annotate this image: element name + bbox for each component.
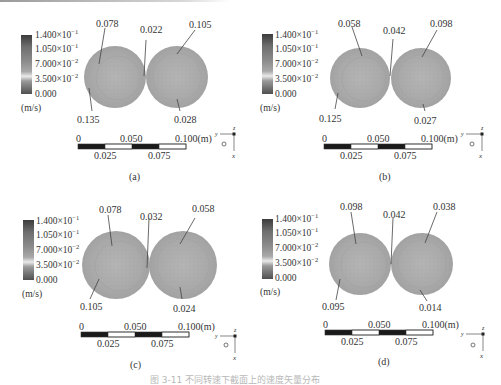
annotation-right-top: 0.038 [433, 201, 456, 212]
panel-a: 1.400×10−1 1.050×10−1 7.000×10−2 3.500×1… [21, 18, 236, 183]
colorbar-unit: (m/s) [21, 103, 41, 114]
svg-text:1.050×10−1: 1.050×10−1 [36, 228, 79, 240]
annotation-right-top: 0.098 [430, 18, 453, 29]
scale-bar: 0 0.050 0.100(m) 0.025 0.075 [323, 319, 459, 347]
svg-text:7.000×10−2: 7.000×10−2 [36, 243, 79, 255]
annotation-left-top: 0.098 [340, 201, 363, 212]
colorbar-tick-4: 0.000 [35, 89, 57, 99]
panel-d: 1.400×10−1 1.050×10−1 7.000×10−2 3.500×1… [260, 201, 485, 368]
colorbar-unit: (m/s) [260, 287, 280, 298]
svg-text:0.075: 0.075 [394, 150, 417, 161]
colorbar-tick-4: 0.000 [275, 89, 297, 99]
scale-bar: 0 0.050 0.100(m) 0.025 0.075 [79, 321, 215, 349]
svg-text:0: 0 [79, 321, 84, 332]
svg-text:x: x [232, 354, 237, 362]
annotation-left-bottom: 0.095 [322, 301, 345, 312]
scale-tick-100: 0.100(m) [175, 133, 212, 145]
annotation-right-bottom: 0.014 [419, 302, 442, 313]
axis-triad: y z x [214, 327, 237, 362]
annotation-left-top: 0.078 [96, 18, 119, 29]
colorbar-tick-2: 7.000×10−2 [35, 57, 78, 69]
axis-triad: y z x [460, 325, 485, 360]
panel-label: (c) [130, 359, 141, 371]
annotation-right-bottom: 0.027 [414, 115, 437, 126]
scale-tick-075: 0.075 [148, 150, 171, 161]
colorbar-unit: (m/s) [22, 289, 42, 300]
velocity-contour-discs [84, 46, 208, 108]
annotation-right-bottom: 0.028 [174, 114, 197, 125]
svg-text:0.050: 0.050 [368, 319, 391, 330]
annotation-right-top: 0.058 [192, 203, 215, 214]
colorbar-tick-3: 3.500×10−2 [35, 72, 78, 84]
svg-text:0.000: 0.000 [275, 273, 297, 283]
scale-bar: 0 0.050 0.100(m) 0.025 0.075 [76, 133, 212, 161]
svg-text:z: z [233, 327, 237, 333]
svg-text:z: z [232, 125, 236, 131]
svg-text:0: 0 [322, 133, 327, 144]
figure-caption: 图 3-11 不同转速下截面上的速度矢量分布 [150, 374, 320, 385]
panel-label: (a) [129, 171, 140, 183]
colorbar-tick-3: 3.500×10−2 [275, 72, 318, 84]
axis-triad: y z x [460, 125, 484, 160]
colorbar-gradient [21, 35, 32, 94]
svg-text:3.500×10−2: 3.500×10−2 [36, 258, 79, 270]
annotation-left-bottom: 0.125 [319, 113, 342, 124]
svg-text:0.025: 0.025 [97, 338, 120, 349]
panel-label: (b) [379, 171, 391, 183]
svg-text:0.100(m): 0.100(m) [421, 133, 458, 145]
scale-bar: 0 0.050 0.100(m) 0.025 0.075 [322, 133, 458, 161]
svg-text:z: z [480, 125, 484, 131]
svg-text:1.050×10−1: 1.050×10−1 [275, 226, 318, 238]
annotation-left-bottom: 0.105 [80, 301, 103, 312]
svg-text:z: z [481, 325, 485, 331]
svg-text:0.100(m): 0.100(m) [178, 321, 215, 333]
colorbar: 1.400×10−1 1.050×10−1 7.000×10−2 3.500×1… [22, 214, 79, 300]
panel-c: 1.400×10−1 1.050×10−1 7.000×10−2 3.500×1… [22, 203, 237, 371]
svg-text:3.500×10−2: 3.500×10−2 [275, 256, 318, 268]
svg-text:y: y [214, 131, 218, 137]
svg-text:0.000: 0.000 [36, 275, 58, 285]
colorbar-gradient [262, 219, 273, 279]
svg-text:y: y [214, 333, 218, 339]
svg-text:0.050: 0.050 [367, 133, 390, 144]
velocity-contour-discs [330, 48, 451, 108]
scale-tick-025: 0.025 [94, 150, 117, 161]
panel-b: 1.400×10−1 1.050×10−1 7.000×10−2 3.500×1… [260, 18, 484, 183]
colorbar: 1.400×10−1 1.050×10−1 7.000×10−2 3.500×1… [21, 28, 78, 114]
svg-text:y: y [460, 331, 464, 337]
svg-text:y: y [460, 131, 464, 137]
colorbar-tick-0: 1.400×10−1 [275, 28, 318, 40]
velocity-contour-discs [82, 231, 217, 299]
svg-text:0.100(m): 0.100(m) [422, 319, 459, 331]
svg-text:1.400×10−1: 1.400×10−1 [275, 212, 318, 224]
annotation-left-top: 0.058 [338, 18, 361, 29]
colorbar-gradient [262, 34, 273, 94]
annotation-right-top: 0.105 [189, 19, 212, 30]
panel-label: (d) [378, 356, 390, 368]
colorbar-tick-2: 7.000×10−2 [275, 57, 318, 69]
annotation-left-bottom: 0.135 [77, 114, 100, 125]
annotation-middle: 0.032 [140, 211, 163, 222]
colorbar-tick-1: 1.050×10−1 [275, 42, 318, 54]
figure-canvas: 1.400×10−1 1.050×10−1 7.000×10−2 3.500×1… [0, 0, 501, 385]
svg-text:0.075: 0.075 [151, 338, 174, 349]
svg-text:x: x [231, 152, 236, 160]
scale-tick-0: 0 [76, 133, 81, 144]
colorbar-unit: (m/s) [260, 103, 280, 114]
svg-text:0: 0 [323, 319, 328, 330]
annotation-left-top: 0.078 [99, 204, 122, 215]
svg-text:0.050: 0.050 [124, 321, 147, 332]
annotation-middle: 0.022 [140, 24, 163, 35]
colorbar-gradient [23, 220, 34, 280]
colorbar: 1.400×10−1 1.050×10−1 7.000×10−2 3.500×1… [260, 28, 318, 114]
annotation-middle: 0.042 [383, 209, 406, 220]
svg-text:0.025: 0.025 [341, 336, 364, 347]
svg-text:x: x [479, 352, 484, 360]
axis-triad: y z x [214, 125, 236, 160]
svg-text:0.025: 0.025 [340, 150, 363, 161]
colorbar-tick-1: 1.050×10−1 [35, 42, 78, 54]
svg-text:1.400×10−1: 1.400×10−1 [36, 214, 79, 226]
colorbar-tick-0: 1.400×10−1 [35, 28, 78, 40]
svg-text:x: x [478, 152, 483, 160]
svg-text:7.000×10−2: 7.000×10−2 [275, 241, 318, 253]
